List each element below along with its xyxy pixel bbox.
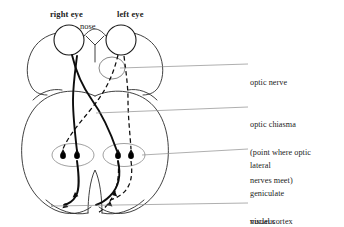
lgn-synapse-dots <box>60 153 134 159</box>
label-visual-cortex: visual cortex <box>250 199 293 227</box>
leader-line-visual-cortex <box>52 203 248 206</box>
temporal-pole-left-outline <box>128 89 157 100</box>
longitudinal-fissure-notch <box>88 170 102 213</box>
label-optic-nerve: optic nerve <box>250 60 287 106</box>
nose-marker-group <box>86 36 104 62</box>
nose-v-shape <box>86 36 104 45</box>
leader-line-lgn <box>142 149 248 155</box>
label-lgn-line-1: lateral <box>250 161 284 170</box>
frontal-lobe-right-outline <box>27 33 57 95</box>
right-eye-uncrossed-tract-to-cortex <box>64 161 79 205</box>
synapse-dot-left-lateral <box>128 153 134 159</box>
left-eye-optic-tracts <box>63 55 132 213</box>
synapse-dot-right-lateral <box>74 153 80 159</box>
label-nose: nose <box>80 22 96 32</box>
figure-root: right eye left eye nose optic nerve opti… <box>0 0 344 227</box>
leader-lines-group <box>52 64 248 206</box>
lgn-left-ellipse <box>103 144 145 167</box>
temporal-pole-right-outline <box>33 89 62 100</box>
synapse-dot-right-medial <box>60 153 66 159</box>
cerebrum-right-outline <box>22 91 95 213</box>
leader-line-optic-nerve <box>120 64 248 68</box>
left-eye-crossed-tract <box>63 55 118 149</box>
leader-line-optic-chiasma <box>96 107 248 113</box>
label-visual-cortex-line-1: visual cortex <box>250 217 293 226</box>
left-eye-circle <box>106 25 136 55</box>
label-left-eye: left eye <box>117 10 144 20</box>
label-optic-nerve-line-1: optic nerve <box>250 78 287 87</box>
leader-origin-dot-visual-cortex <box>51 205 53 207</box>
label-lgn-line-2: geniculate <box>250 189 284 198</box>
frontal-lobe-left-outline <box>133 33 163 95</box>
right-eye-crossed-tract <box>72 55 117 151</box>
lgn-right-ellipse <box>52 144 94 167</box>
label-right-eye: right eye <box>50 10 83 20</box>
synapse-dot-left-medial <box>115 153 121 159</box>
label-optic-chiasma-line-1: optic chiasma <box>250 120 311 129</box>
